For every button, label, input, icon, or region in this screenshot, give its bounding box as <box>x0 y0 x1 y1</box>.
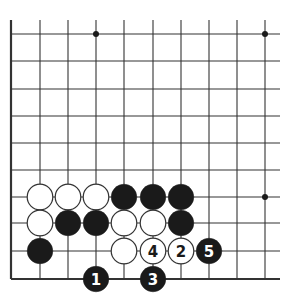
white-stone <box>111 210 137 236</box>
black-stone <box>168 210 194 236</box>
white-stone <box>111 238 137 264</box>
black-stone <box>83 210 109 236</box>
move-2-white-stone: 2 <box>168 238 194 264</box>
star-point <box>262 31 268 37</box>
black-stone <box>168 184 194 210</box>
go-board: 42513 <box>0 0 305 302</box>
move-5-black-stone: 5 <box>196 238 222 264</box>
move-number-label: 4 <box>148 243 158 261</box>
move-number-label: 1 <box>91 271 101 289</box>
white-stone <box>140 210 166 236</box>
star-point <box>262 194 268 200</box>
white-stone <box>27 210 53 236</box>
black-stone <box>111 184 137 210</box>
star-point <box>93 31 99 37</box>
white-stone <box>27 184 53 210</box>
move-3-black-stone: 3 <box>140 266 166 292</box>
black-stone <box>27 238 53 264</box>
move-number-label: 5 <box>204 243 214 261</box>
white-stone <box>83 184 109 210</box>
white-stone <box>55 184 81 210</box>
black-stone <box>55 210 81 236</box>
move-number-label: 3 <box>148 271 158 289</box>
move-4-white-stone: 4 <box>140 238 166 264</box>
move-1-black-stone: 1 <box>83 266 109 292</box>
move-number-label: 2 <box>176 243 186 261</box>
black-stone <box>140 184 166 210</box>
